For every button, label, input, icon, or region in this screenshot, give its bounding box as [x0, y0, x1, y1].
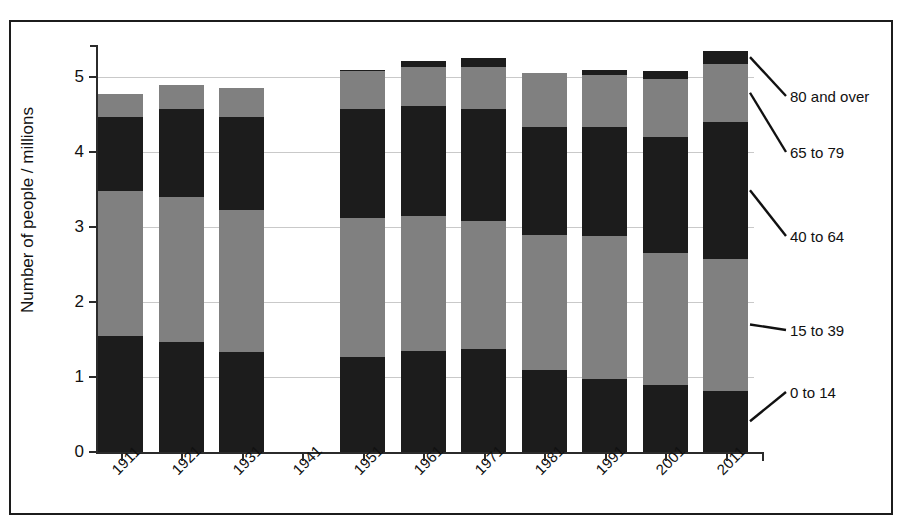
leader-line	[750, 325, 786, 331]
chart-figure: 012345 191119211931194119511961197119811…	[0, 0, 913, 532]
leader-line	[750, 392, 786, 421]
leader-line	[750, 93, 786, 152]
leader-line	[750, 57, 786, 96]
leader-line	[750, 190, 786, 236]
legend-leader-lines	[0, 0, 913, 532]
